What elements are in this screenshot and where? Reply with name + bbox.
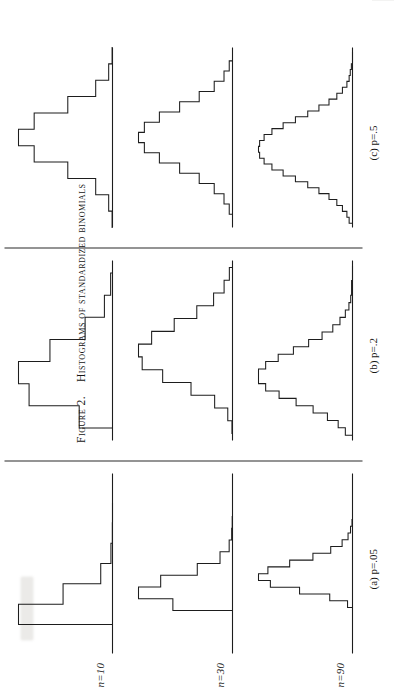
histogram-n30-p5	[132, 47, 237, 227]
scanned-page: n=10 n=30 n=90 (a) p=.05 (b) p=.2 (c) p=…	[0, 0, 395, 693]
panel-n10-p2	[12, 260, 117, 440]
row-label-n10: n=10	[93, 662, 105, 687]
column-label-b: (b) p=.2	[366, 337, 378, 373]
histogram-n30-p05	[132, 473, 237, 653]
histogram-steps-n10-p2	[18, 273, 112, 428]
figure-2: n=10 n=30 n=90 (a) p=.05 (b) p=.2 (c) p=…	[0, 0, 395, 693]
histogram-outline	[18, 502, 112, 624]
row-label-n30: n=30	[213, 662, 225, 687]
panel-n30-p05	[132, 473, 237, 653]
panel-n10-p05	[12, 473, 117, 653]
histogram-outline	[258, 51, 352, 222]
figure-caption-text: Histograms of standardized binomials	[75, 183, 87, 382]
histogram-n30-p2	[132, 260, 237, 440]
histogram-n90-p05	[252, 473, 357, 653]
histogram-n10-p5	[12, 47, 117, 227]
histogram-steps-n30-p2	[138, 267, 232, 433]
histogram-n10-p2	[12, 260, 117, 440]
row-label-n90: n=90	[333, 662, 345, 687]
histogram-outline	[258, 265, 352, 434]
column-divider-1	[4, 460, 362, 461]
histogram-steps-n30-p05	[138, 516, 232, 610]
histogram-outline	[138, 60, 232, 213]
panel-n90-p05	[252, 473, 357, 653]
histogram-steps-n90-p2	[258, 265, 352, 434]
figure-caption-number: Figure 2.	[75, 396, 87, 443]
histogram-outline	[138, 516, 232, 610]
panel-n90-p5	[252, 47, 357, 227]
histogram-n90-p5	[252, 47, 357, 227]
histogram-outline	[18, 47, 112, 227]
histogram-steps-n90-p05	[258, 519, 352, 607]
column-divider-2	[4, 247, 362, 248]
panel-n90-p2	[252, 260, 357, 440]
panel-n30-p2	[132, 260, 237, 440]
panel-n30-p5	[132, 47, 237, 227]
figure-body: n=10 n=30 n=90 (a) p=.05 (b) p=.2 (c) p=…	[0, 0, 395, 693]
histogram-n90-p2	[252, 260, 357, 440]
histogram-steps-n30-p5	[138, 60, 232, 213]
column-label-a: (a) p=.05	[366, 549, 378, 589]
panel-n10-p5	[12, 47, 117, 227]
histogram-steps-n10-p5	[18, 47, 112, 227]
column-label-c: (c) p=.5	[366, 125, 378, 160]
histogram-n10-p05	[12, 473, 117, 653]
figure-caption: Figure 2. Histograms of standardized bin…	[75, 243, 87, 443]
histogram-outline	[18, 273, 112, 428]
histogram-outline	[258, 519, 352, 607]
histogram-steps-n90-p5	[258, 51, 352, 222]
histogram-outline	[138, 267, 232, 433]
histogram-steps-n10-p05	[18, 502, 112, 624]
